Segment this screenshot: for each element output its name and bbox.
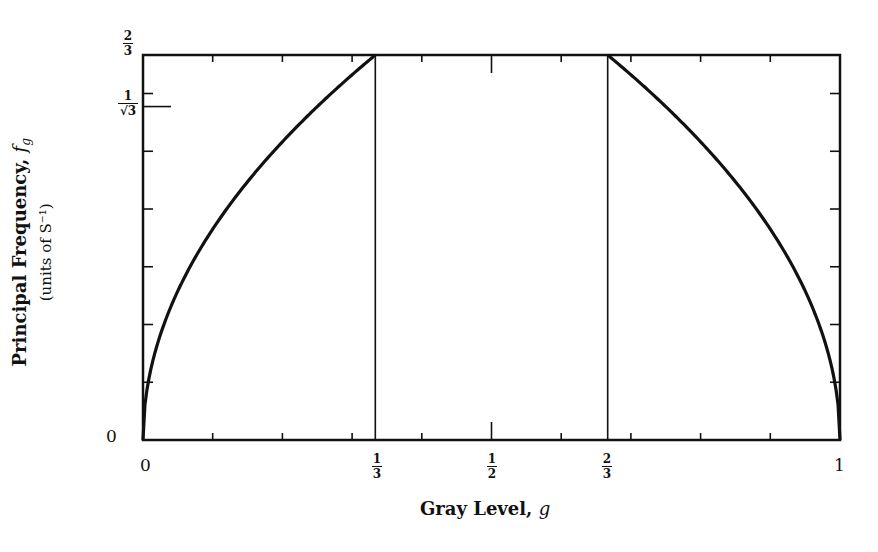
x-tick-label-half: 1 2 [487,453,497,480]
numerator: 2 [124,30,132,42]
numerator: 1 [373,453,381,465]
plot-area [0,0,878,552]
y-axis-title-text: Principal Frequency, [9,159,30,367]
y-axis-title-variable: fg [9,138,30,152]
x-tick-label-zero: 0 [140,455,151,475]
x-tick-label-two-thirds: 2 3 [602,453,612,480]
y-axis-subtitle: (units of S⁻¹) [36,102,54,402]
denominator: 2 [488,468,496,480]
x-axis-title-text: Gray Level, [420,498,532,519]
curve-left-branch [143,55,375,440]
denominator: 3 [603,468,611,480]
numerator: 1 [488,453,496,465]
denominator: 3 [124,45,132,57]
denominator: √3 [120,105,136,117]
x-tick-label-one: 1 [834,455,845,475]
x-axis-title: Gray Level, g [420,498,550,519]
y-tick-label-zero: 0 [106,426,117,446]
y-tick-label-two-thirds: 2 3 [123,30,133,57]
numerator: 1 [124,90,132,102]
y-axis-title-main: Principal Frequency, fg [10,102,37,402]
x-tick-label-one-third: 1 3 [372,453,382,480]
y-axis-title: Principal Frequency, fg (units of S⁻¹) [10,102,55,402]
numerator: 2 [603,453,611,465]
curve-right-branch [608,55,840,440]
x-axis-title-variable: g [539,498,551,519]
denominator: 3 [373,468,381,480]
y-tick-label-inv-sqrt3: 1 √3 [118,90,138,117]
plot-frame [143,55,840,440]
